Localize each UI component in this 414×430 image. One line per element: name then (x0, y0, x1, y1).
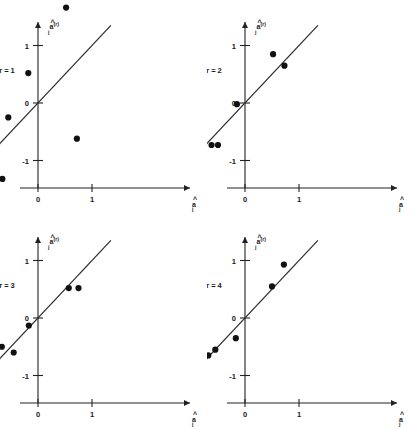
panel-label-r: r = 3 (0, 281, 15, 290)
data-point (212, 347, 218, 353)
reference-line (207, 240, 318, 391)
panel-label-r: r = 1 (0, 66, 15, 75)
scatter-panel-r4: -101-101r = 4^a(r)j^aj (207, 215, 414, 430)
data-point (234, 101, 240, 107)
reference-line (0, 25, 111, 175)
reference-line (207, 25, 318, 177)
scatter-plot-figure: -101-101r = 1^a(r)j^aj-101-101r = 2^a(r)… (0, 0, 414, 430)
data-point (66, 285, 72, 291)
y-tick-label: 1 (232, 257, 236, 266)
x-axis-arrow-icon (184, 400, 190, 406)
panel-label-r: r = 4 (207, 281, 223, 290)
data-point (281, 261, 287, 267)
scatter-panel-r1: -101-101r = 1^a(r)j^aj (0, 0, 207, 215)
data-point (233, 335, 239, 341)
y-tick-label: -1 (229, 372, 236, 381)
x-axis-title: ^aj (398, 196, 404, 212)
y-tick-label: 0 (232, 314, 236, 323)
x-axis-arrow-icon (391, 400, 397, 406)
y-tick-label: 0 (25, 314, 29, 323)
x-tick-label: 1 (90, 410, 94, 419)
data-point (269, 283, 275, 289)
y-tick-label: 1 (25, 257, 29, 266)
data-point (11, 349, 17, 355)
x-tick-label: 0 (243, 410, 247, 419)
data-point (215, 142, 221, 148)
y-tick-label: 1 (25, 42, 29, 51)
x-tick-label: 1 (90, 195, 94, 204)
data-point (270, 51, 276, 57)
y-tick-label: -1 (229, 157, 236, 166)
y-tick-label: -1 (22, 372, 29, 381)
x-tick-label: 0 (36, 195, 40, 204)
data-point (63, 4, 69, 10)
data-point (0, 176, 5, 182)
scatter-panel-r2: -101-101r = 2^a(r)j^aj (207, 0, 414, 215)
x-axis-arrow-icon (184, 185, 190, 191)
data-point (207, 352, 211, 358)
x-axis-title: ^aj (191, 196, 197, 212)
reference-line (0, 240, 111, 391)
y-axis-title: ^a(r)j (47, 234, 59, 250)
scatter-panel-r3: -101-101r = 3^a(r)j^aj (0, 215, 207, 430)
data-point (26, 322, 32, 328)
x-tick-label: 1 (297, 410, 301, 419)
x-tick-label: 0 (243, 195, 247, 204)
data-point (5, 114, 11, 120)
y-axis-arrow-icon (242, 237, 248, 243)
y-tick-label: -1 (22, 157, 29, 166)
data-point (75, 285, 81, 291)
y-axis-arrow-icon (242, 22, 248, 28)
y-axis-title: ^a(r)j (254, 234, 266, 250)
data-point (25, 70, 31, 76)
x-tick-label: 0 (36, 410, 40, 419)
y-tick-label: 0 (25, 99, 29, 108)
y-axis-arrow-icon (35, 22, 41, 28)
y-axis-title: ^a(r)j (47, 19, 59, 35)
x-axis-title: ^aj (398, 411, 404, 427)
data-point (281, 63, 287, 69)
x-axis-arrow-icon (391, 185, 397, 191)
panel-label-r: r = 2 (207, 66, 222, 75)
y-tick-label: 1 (232, 42, 236, 51)
x-axis-title: ^aj (191, 411, 197, 427)
data-point (208, 142, 214, 148)
x-tick-label: 1 (297, 195, 301, 204)
y-axis-arrow-icon (35, 237, 41, 243)
data-point (0, 344, 5, 350)
data-point (74, 136, 80, 142)
y-axis-title: ^a(r)j (254, 19, 266, 35)
